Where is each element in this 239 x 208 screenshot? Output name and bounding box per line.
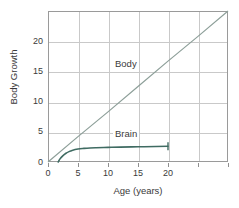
x-tick-mark bbox=[198, 163, 199, 167]
x-tick-mark bbox=[168, 163, 169, 167]
series-annotation-body: Body bbox=[113, 59, 139, 69]
x-tick-label: 20 bbox=[158, 169, 178, 178]
y-tick-label: 0 bbox=[23, 158, 43, 167]
y-tick-label: 5 bbox=[23, 127, 43, 136]
series-layer bbox=[48, 11, 228, 162]
series-line-body bbox=[48, 11, 228, 162]
x-tick-label: 0 bbox=[38, 169, 58, 178]
y-tick-label: 15 bbox=[23, 67, 43, 76]
y-tick-label: 20 bbox=[23, 37, 43, 46]
x-tick-label: 15 bbox=[128, 169, 148, 178]
series-annotation-brain: Brain bbox=[113, 129, 139, 139]
x-tick-mark bbox=[228, 163, 229, 167]
x-tick-mark bbox=[138, 163, 139, 167]
y-axis-title: Body Growth bbox=[9, 32, 19, 122]
x-tick-mark bbox=[78, 163, 79, 167]
x-tick-mark bbox=[48, 163, 49, 167]
x-tick-label: 5 bbox=[68, 169, 88, 178]
x-axis-title: Age (years) bbox=[48, 186, 228, 196]
x-tick-mark bbox=[108, 163, 109, 167]
series-line-brain bbox=[58, 146, 168, 162]
growth-chart: 05101520 05101520 Body Growth Age (years… bbox=[0, 0, 239, 208]
y-tick-label: 10 bbox=[23, 97, 43, 106]
x-tick-label: 10 bbox=[98, 169, 118, 178]
